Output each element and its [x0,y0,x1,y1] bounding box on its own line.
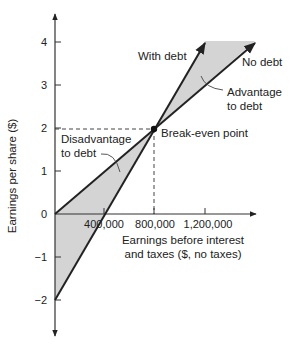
x-tick-label: 400,000 [84,218,124,230]
break-even-point-marker [151,126,157,132]
ebit-eps-chart: 4 3 2 1 0 −1 −2 400,000 800,000 1,200,00… [0,0,299,351]
advantage-label-line1: Advantage [227,86,282,98]
x-axis-title-line2: and taxes ($, no taxes) [125,248,242,260]
y-tick-label: 2 [41,122,47,134]
disadvantage-label-line2: to debt [61,147,97,159]
y-tick-label: 1 [41,165,47,177]
no-debt-label: No debt [242,56,283,68]
y-tick-label: 4 [41,36,47,48]
break-even-label: Break-even point [161,127,249,139]
y-tick-label: −2 [34,294,47,306]
disadvantage-label-line1: Disadvantage [61,133,131,145]
y-tick-label: 0 [41,208,47,220]
with-debt-line [55,43,205,300]
x-axis-title-line1: Earnings before interest [122,234,245,246]
y-tick-label: 3 [41,79,47,91]
x-ticks [104,208,205,214]
with-debt-label: With debt [138,50,187,62]
y-axis-title: Earnings per share ($) [6,119,18,234]
x-tick-label: 1,200,000 [184,218,233,230]
x-tick-label: 800,000 [135,218,175,230]
advantage-label-line2: to debt [227,100,263,112]
y-tick-label: −1 [34,251,47,263]
